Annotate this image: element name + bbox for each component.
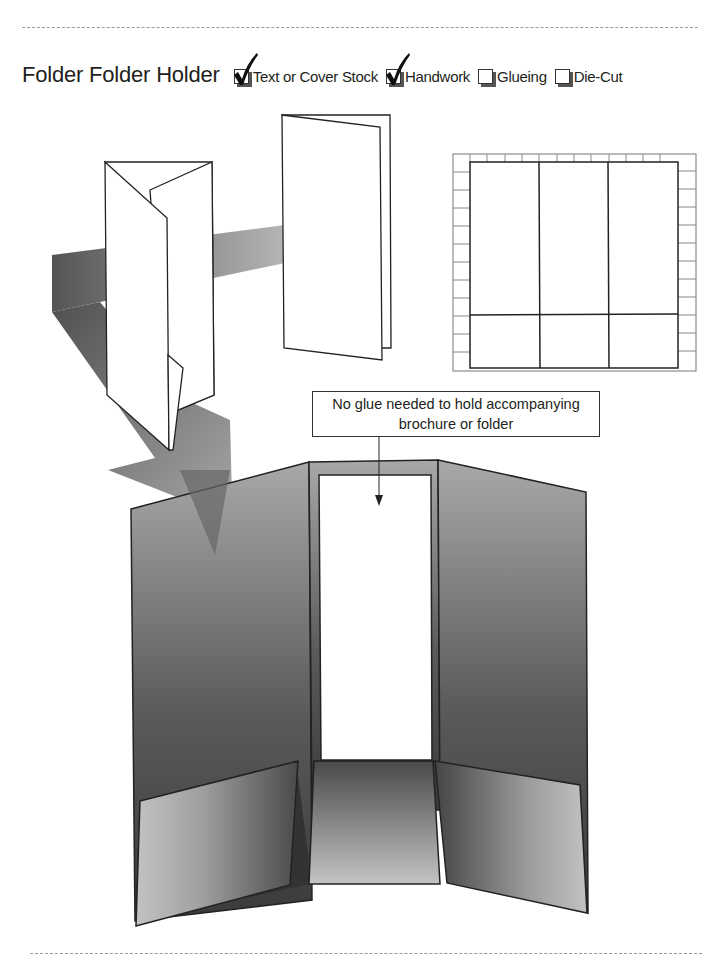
callout-text-line2: brochure or folder: [313, 414, 599, 434]
bottom-dashed-rule: [30, 953, 702, 954]
folder-holder-open: [131, 460, 588, 926]
folder-holder-illustration: [0, 0, 722, 961]
callout-text-line1: No glue needed to hold accompanying: [313, 394, 599, 414]
bi-fold-brochure: [282, 115, 391, 360]
callout-box: No glue needed to hold accompanying broc…: [312, 391, 600, 437]
die-line-template: [453, 154, 696, 371]
